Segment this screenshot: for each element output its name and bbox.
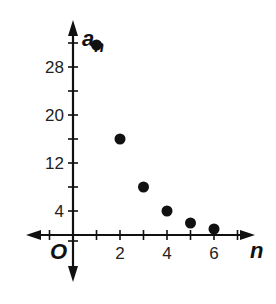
- ticks: [50, 43, 238, 241]
- data-point: [185, 218, 196, 229]
- x-tick-label: 2: [115, 244, 124, 263]
- data-points: [91, 40, 220, 235]
- data-point: [115, 134, 126, 145]
- origin-label: O: [50, 239, 67, 264]
- y-axis-arrow-down-icon: [68, 266, 78, 282]
- x-tick-label: 6: [209, 244, 218, 263]
- x-axis-arrow-left-icon: [26, 230, 41, 240]
- data-point: [162, 206, 173, 217]
- x-tick-label: 4: [162, 244, 171, 263]
- y-axis-title: an: [82, 26, 104, 55]
- data-point: [209, 224, 220, 235]
- tick-labels: 2464122028: [45, 58, 219, 263]
- y-tick-label: 28: [45, 58, 64, 77]
- data-point: [138, 182, 149, 193]
- y-axis-arrow-up-icon: [68, 20, 78, 36]
- y-tick-label: 4: [55, 202, 64, 221]
- scatter-chart: 2464122028 an n O: [0, 0, 276, 304]
- y-tick-label: 20: [45, 106, 64, 125]
- x-axis-title: n: [250, 238, 263, 263]
- y-tick-label: 12: [45, 154, 64, 173]
